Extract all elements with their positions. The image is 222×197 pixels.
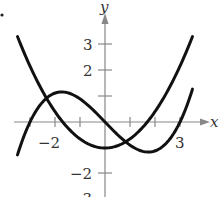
axes	[14, 20, 203, 197]
y-tick-label-2: 2	[83, 62, 93, 80]
y-axis-label: y	[99, 0, 109, 16]
x-axis-label: x	[210, 113, 219, 131]
y-tick-label-neg3: −3	[70, 190, 92, 197]
bullet-dot	[0, 13, 3, 16]
x-tick-label-neg2: −2	[38, 134, 60, 152]
x-axis-arrow-icon	[200, 119, 210, 126]
x-tick-label-3: 3	[175, 134, 185, 152]
function-graph: y x −2 3 3 2 −2 −3	[0, 0, 222, 197]
y-tick-label-3: 3	[83, 36, 93, 54]
y-tick-label-neg2: −2	[70, 165, 92, 183]
